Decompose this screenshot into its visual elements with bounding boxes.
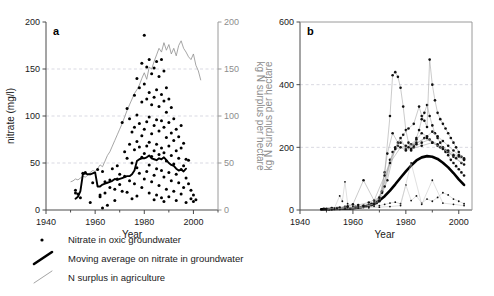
panel-b-low-point [368,207,370,209]
panel-b-data-point [452,162,455,165]
panel-b-data-point [328,208,331,211]
panel-b-data-point [399,141,402,144]
panel-a-data-point [165,160,168,163]
panel-b-data-point [418,105,421,108]
panel-b-data-point [447,144,450,147]
panel-b-data-point [357,204,360,207]
panel-a-y2-ticklabel: 200 [224,17,239,27]
panel-b-data-point [420,118,423,121]
panel-b-low-point [389,202,391,204]
panel-b-data-point [415,141,418,144]
panel-b-data-point [447,132,450,135]
panel-a-data-point [84,171,87,174]
panel-a-data-point [140,186,143,189]
panel-a-data-point [167,145,170,148]
panel-a-data-point [126,107,129,110]
panel-a-data-point [135,114,138,117]
panel-a-data-point [126,191,129,194]
panel-b-data-point [420,144,423,147]
panel-b-low-point [373,205,375,207]
panel-b-data-point [431,130,434,133]
panel-a-data-point [116,164,119,167]
panel-a-ylabel: nitrate (mg/l) [5,88,16,144]
panel-b-low-point [421,203,423,205]
panel-b-data-point [463,174,466,177]
panel-a-data-point [148,58,151,61]
panel-b-x-ticklabel: 2000 [449,217,469,227]
panel-b-data-point [455,146,458,149]
panel-b-low-point [453,203,455,205]
panel-b-low-point [431,179,433,181]
panel-b-y-ticklabel: 0 [289,205,294,215]
panel-a-data-point [189,197,192,200]
panel-a-data-point [155,143,158,146]
panel-a-data-point [158,105,161,108]
panel-a-data-point [165,111,168,114]
panel-a-data-point [76,193,79,196]
panel-a-data-point [145,66,148,69]
panel-a-data-point [185,201,188,204]
panel-a-data-point [177,157,180,160]
panel-a-data-point [118,173,121,176]
panel-a-data-point [103,192,106,195]
panel-a-data-point [155,60,158,63]
panel-a-y-ticklabel: 200 [25,17,40,27]
panel-a-data-point [150,72,153,75]
panel-a-data-point [128,179,131,182]
panel-b-data-point [405,149,408,152]
panel-b-data-point [455,165,458,168]
panel-a-x-ticklabel: 1960 [85,217,105,227]
panel-b-data-point [447,154,450,157]
panel-a-data-point [101,207,104,210]
panel-b-surplus-track [326,60,464,209]
panel-a-data-point [89,201,92,204]
panel-b-low-point [334,207,336,209]
panel-a-data-point [160,93,163,96]
panel-a-data-point [148,141,151,144]
panel-a-data-point [155,167,158,170]
panel-b-data-point [457,168,460,171]
panel-a-data-point [167,98,170,101]
panel-a-data-point [180,146,183,149]
panel-a-data-point [150,155,153,158]
panel-a-data-point [175,199,178,202]
panel-b-data-point [431,124,434,127]
panel-a-data-point [96,168,99,171]
panel-a-x-ticklabel: 1940 [36,217,56,227]
panel-b-label: b [307,25,314,37]
panel-a-data-point [138,122,141,125]
panel-a-data-point [160,119,163,122]
panel-a-data-point [145,145,148,148]
panel-b-data-point [442,148,445,151]
panel-a-data-point [113,188,116,191]
panel-a-data-point [148,115,151,118]
panel-a-data-point [165,188,168,191]
panel-a-data-point [143,83,146,86]
panel-a-data-point [133,182,136,185]
panel-a-data-point [145,120,148,123]
legend-dot-marker-icon [40,238,43,241]
panel-a-data-point [175,173,178,176]
panel-a-data-point [91,181,94,184]
panel-b-data-point [399,87,402,90]
panel-a-data-point [128,117,131,120]
panel-b-low-point [341,200,343,202]
panel-a-data-point [108,178,111,181]
panel-a-data-point [167,171,170,174]
panel-b-data-point [389,115,392,118]
panel-b-data-point [397,76,400,79]
panel-a-data-point [153,198,156,201]
panel-b-y-ticklabel: 200 [279,143,294,153]
panel-b-data-point [399,146,402,149]
panel-a-data-point [192,193,195,196]
panel-a-data-point [143,128,146,131]
panel-b-data-point [460,171,463,174]
panel-a-data-point [172,190,175,193]
panel-a-data-point [148,163,151,166]
panel-a-data-point [121,121,124,124]
panel-a-data-point [143,34,146,37]
panel-b-data-point [391,74,394,77]
panel-b-x-ticklabel: 1960 [343,217,363,227]
panel-a-data-point [118,183,121,186]
panel-a-data-point [177,181,180,184]
